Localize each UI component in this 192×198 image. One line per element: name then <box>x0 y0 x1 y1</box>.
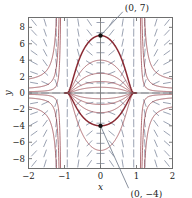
x-tick-label: −1 <box>58 171 71 181</box>
y-tick-label: −2 <box>12 104 25 114</box>
y-tick-label: 8 <box>20 22 25 32</box>
x-tick-label: 2 <box>170 171 175 181</box>
x-tick-label: 1 <box>134 171 139 181</box>
y-tick-label: 2 <box>20 72 25 82</box>
x-axis-label: x <box>98 182 103 192</box>
figure-container: −2−101286420−2−4−6−8 (0, 7)(0, −4) x y <box>0 0 192 198</box>
x-tick-label: −2 <box>22 171 35 181</box>
y-tick-label: −6 <box>12 137 25 147</box>
y-axis-label: y <box>3 90 13 97</box>
point-label-top: (0, 7) <box>125 3 149 13</box>
y-tick-label: −4 <box>12 121 25 131</box>
y-tick-label: 6 <box>20 39 25 49</box>
y-tick-label: −8 <box>12 154 25 164</box>
x-tick-label: 0 <box>98 171 103 181</box>
data-point-marker <box>98 33 102 37</box>
point-label-bottom: (0, −4) <box>131 189 163 198</box>
direction-field-plot: −2−101286420−2−4−6−8 (0, 7)(0, −4) x y <box>0 0 192 198</box>
y-tick-label: 0 <box>20 88 25 98</box>
data-point-marker <box>98 124 102 128</box>
y-tick-label: 4 <box>20 55 25 65</box>
